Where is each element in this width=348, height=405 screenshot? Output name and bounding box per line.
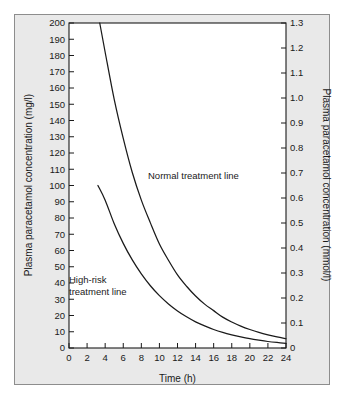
y-tick-label-right: 0.4 <box>290 242 303 253</box>
y-tick-label-left: 80 <box>54 212 65 223</box>
x-tick-label: 24 <box>281 352 292 363</box>
x-tick-label: 16 <box>208 352 219 363</box>
x-tick-label: 12 <box>172 352 183 363</box>
y-tick-label-right: 0.3 <box>290 267 303 278</box>
y-tick-label-left: 10 <box>54 326 65 337</box>
x-tick-label: 18 <box>226 352 237 363</box>
x-tick-label: 10 <box>154 352 165 363</box>
y-tick-label-right: 1.1 <box>290 67 303 78</box>
y-tick-label-left: 70 <box>54 229 65 240</box>
y-tick-label-left: 40 <box>54 277 65 288</box>
y-tick-label-right: 0.1 <box>290 317 303 328</box>
y-tick-label-right: 0.8 <box>290 142 303 153</box>
y-axis-right-title: Plasma paracetamol concentration (mmol/l… <box>321 89 332 282</box>
y-tick-label-left: 0 <box>60 342 65 353</box>
y-tick-label-left: 200 <box>49 17 65 28</box>
y-tick-label-left: 60 <box>54 245 65 256</box>
y-tick-label-right: 0.6 <box>290 192 303 203</box>
x-tick-label: 20 <box>245 352 256 363</box>
y-tick-label-left: 110 <box>50 164 65 175</box>
x-tick-label: 0 <box>66 352 71 363</box>
y-tick-label-right: 1.2 <box>290 42 303 53</box>
y-tick-label-right: 1.3 <box>290 17 303 28</box>
x-tick-label: 22 <box>263 352 274 363</box>
nomogram-chart: 0102030405060708090100110120130140150160… <box>0 0 348 405</box>
y-tick-label-left: 120 <box>49 147 65 158</box>
y-tick-label-left: 190 <box>49 34 65 45</box>
x-axis-title: Time (h) <box>159 373 196 384</box>
x-tick-label: 8 <box>139 352 144 363</box>
y-tick-label-left: 20 <box>54 310 65 321</box>
y-axis-left-title: Plasma paracetamol concentration (mg/l) <box>23 94 34 276</box>
normal-treatment-line-label: Normal treatment line <box>148 170 239 181</box>
y-tick-label-left: 130 <box>49 131 65 142</box>
y-tick-label-left: 50 <box>54 261 65 272</box>
x-tick-label: 2 <box>84 352 89 363</box>
paracetamol-nomogram-figure: 0102030405060708090100110120130140150160… <box>0 0 348 405</box>
x-tick-label: 6 <box>121 352 126 363</box>
y-tick-label-right: 1.0 <box>290 92 303 103</box>
plot-area-background <box>69 23 286 348</box>
high-risk-treatment-line-label-line1: High-risk <box>69 274 107 285</box>
y-tick-label-left: 180 <box>49 50 65 61</box>
y-tick-label-left: 90 <box>54 196 65 207</box>
y-tick-label-right: 0.2 <box>290 292 303 303</box>
high-risk-treatment-line-label-line2: treatment line <box>69 286 127 297</box>
y-tick-label-left: 170 <box>49 66 65 77</box>
y-tick-label-left: 160 <box>49 82 65 93</box>
x-tick-label: 14 <box>190 352 201 363</box>
y-tick-label-right: 0.7 <box>290 167 303 178</box>
x-tick-label: 4 <box>103 352 108 363</box>
y-tick-label-right: 0.9 <box>290 117 303 128</box>
y-tick-label-left: 30 <box>54 294 65 305</box>
y-tick-label-left: 140 <box>49 115 65 126</box>
y-tick-label-left: 100 <box>49 180 65 191</box>
y-tick-label-right: 0.5 <box>290 217 303 228</box>
y-tick-label-left: 150 <box>49 99 65 110</box>
